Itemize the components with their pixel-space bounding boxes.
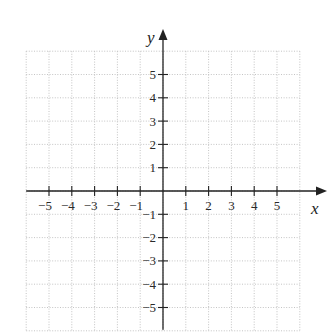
x-axis-arrow-icon — [316, 187, 327, 196]
x-tick-label: 2 — [205, 198, 212, 213]
x-tick-label: −3 — [84, 198, 98, 213]
y-tick-label: −4 — [142, 277, 156, 292]
x-tick-label: −2 — [106, 198, 120, 213]
y-tick-label: −1 — [142, 207, 156, 222]
x-tick-label: 4 — [251, 198, 258, 213]
coordinate-plane: −5−4−3−2−112345 −5−4−3−2−112345 x y — [0, 0, 335, 335]
x-tick-label: 5 — [274, 198, 281, 213]
y-tick-label: −5 — [142, 300, 156, 315]
y-tick-label: −3 — [142, 253, 156, 268]
y-axis-label: y — [145, 28, 155, 47]
y-axis-arrow-icon — [159, 29, 168, 40]
y-tick-label: −2 — [142, 230, 156, 245]
x-tick-label: −4 — [61, 198, 75, 213]
x-tick-label: 3 — [228, 198, 235, 213]
x-axis-label: x — [310, 199, 319, 218]
y-tick-label: 4 — [150, 90, 157, 105]
y-tick-label: 5 — [150, 67, 157, 82]
x-tick-label: −5 — [38, 198, 52, 213]
y-tick-label: 3 — [150, 114, 157, 129]
x-tick-label: 1 — [183, 198, 190, 213]
x-tick-label: −1 — [129, 198, 143, 213]
x-axis-ticks: −5−4−3−2−112345 — [38, 186, 280, 213]
y-tick-label: 2 — [150, 137, 157, 152]
y-tick-label: 1 — [150, 160, 157, 175]
